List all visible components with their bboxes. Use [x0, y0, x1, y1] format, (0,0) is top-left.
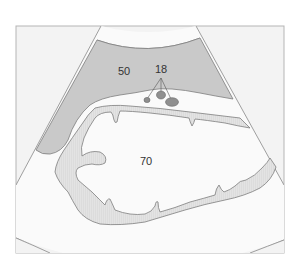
ultrasound-diagram: [0, 0, 303, 265]
label-70: 70: [140, 156, 152, 167]
label-18: 18: [155, 64, 167, 75]
label-50: 50: [118, 66, 130, 77]
